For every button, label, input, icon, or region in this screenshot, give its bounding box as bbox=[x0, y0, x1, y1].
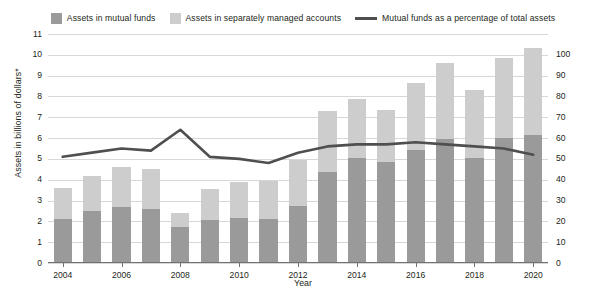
y-axis-left-tick-label: 2 bbox=[2, 217, 42, 226]
y-axis-left-tick-label: 4 bbox=[2, 175, 42, 184]
y-axis-left-tick-label: 7 bbox=[2, 113, 42, 122]
x-axis-tick-label: 2020 bbox=[513, 270, 553, 280]
y-axis-right-tick-label: 40 bbox=[556, 175, 596, 184]
x-axis-tick-label: 2018 bbox=[454, 270, 494, 280]
x-axis-tick bbox=[474, 263, 475, 267]
x-axis-tick-label: 2010 bbox=[219, 270, 259, 280]
y-axis-right-tick-label: 60 bbox=[556, 134, 596, 143]
line-series-mutual-fund-percentage bbox=[48, 34, 548, 263]
x-axis-tick-label: 2006 bbox=[102, 270, 142, 280]
y-axis-right-tick-label: 10 bbox=[556, 238, 596, 247]
y-axis-right-tick-label: 70 bbox=[556, 113, 596, 122]
x-axis-tick-label: 2012 bbox=[278, 270, 318, 280]
x-axis-tick-label: 2014 bbox=[337, 270, 377, 280]
legend-label: Assets in mutual funds bbox=[67, 13, 156, 23]
y-axis-right-tick-label: 90 bbox=[556, 71, 596, 80]
x-axis-tick bbox=[239, 263, 240, 267]
y-axis-right-tick-label: 20 bbox=[556, 217, 596, 226]
legend-label: Mutual funds as a percentage of total as… bbox=[382, 13, 555, 23]
square-swatch-icon bbox=[170, 13, 181, 24]
x-axis-tick bbox=[63, 263, 64, 267]
square-swatch-icon bbox=[51, 13, 62, 24]
x-axis-tick bbox=[416, 263, 417, 267]
x-axis-tick-label: 2004 bbox=[43, 270, 83, 280]
y-axis-right-tick-label: 0 bbox=[556, 259, 596, 268]
legend-item-mutual-funds: Assets in mutual funds bbox=[51, 13, 156, 24]
y-axis-right-tick-label: 30 bbox=[556, 196, 596, 205]
y-axis-left-tick-label: 3 bbox=[2, 196, 42, 205]
x-axis-tick bbox=[357, 263, 358, 267]
plot-area bbox=[48, 34, 548, 263]
y-axis-right-tick-label: 50 bbox=[556, 154, 596, 163]
legend-item-percentage-line: Mutual funds as a percentage of total as… bbox=[355, 13, 555, 23]
percentage-line-path bbox=[63, 130, 534, 163]
x-axis-tick bbox=[298, 263, 299, 267]
x-axis-tick bbox=[122, 263, 123, 267]
y-axis-right-tick-label: 80 bbox=[556, 92, 596, 101]
y-axis-left-tick-label: 9 bbox=[2, 71, 42, 80]
x-axis-tick-label: 2016 bbox=[396, 270, 436, 280]
y-axis-left-tick-label: 1 bbox=[2, 238, 42, 247]
x-axis-tick bbox=[180, 263, 181, 267]
y-axis-left-tick-label: 10 bbox=[2, 50, 42, 59]
y-axis-left-tick-label: 8 bbox=[2, 92, 42, 101]
y-axis-left-tick-label: 11 bbox=[2, 30, 42, 39]
legend-label: Assets in separately managed accounts bbox=[186, 13, 342, 23]
x-axis-tick bbox=[533, 263, 534, 267]
y-axis-right-tick-label: 100 bbox=[556, 50, 596, 59]
chart-legend: Assets in mutual funds Assets in separat… bbox=[0, 8, 606, 28]
y-axis-left-tick-label: 0 bbox=[2, 259, 42, 268]
x-axis-tick-label: 2008 bbox=[160, 270, 200, 280]
y-axis-left-tick-label: 6 bbox=[2, 134, 42, 143]
y-axis-left-tick-label: 5 bbox=[2, 154, 42, 163]
legend-item-separately-managed: Assets in separately managed accounts bbox=[170, 13, 342, 24]
chart-root: Assets in mutual funds Assets in separat… bbox=[0, 0, 606, 299]
line-swatch-icon bbox=[355, 17, 377, 20]
